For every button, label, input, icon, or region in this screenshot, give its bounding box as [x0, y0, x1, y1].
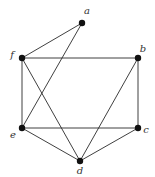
edge-e-d: [22, 128, 80, 161]
edge-c-d: [80, 128, 138, 161]
node-e: [19, 125, 25, 131]
node-label-d: d: [77, 165, 83, 176]
node-c: [135, 125, 141, 131]
node-label-e: e: [10, 129, 16, 140]
labels-group: abcdef: [9, 5, 149, 176]
nodes-group: [19, 20, 141, 164]
node-a: [79, 20, 85, 26]
node-d: [77, 158, 83, 164]
edge-f-d: [22, 58, 80, 161]
node-f: [19, 55, 25, 61]
node-label-b: b: [140, 43, 146, 54]
node-label-f: f: [9, 49, 16, 60]
edge-a-f: [22, 23, 82, 58]
node-b: [135, 55, 141, 61]
node-label-c: c: [143, 124, 149, 135]
graph-diagram: abcdef: [0, 0, 155, 177]
edges-group: [22, 23, 138, 161]
node-label-a: a: [84, 5, 90, 16]
edge-a-e: [22, 23, 82, 128]
edge-b-d: [80, 58, 138, 161]
